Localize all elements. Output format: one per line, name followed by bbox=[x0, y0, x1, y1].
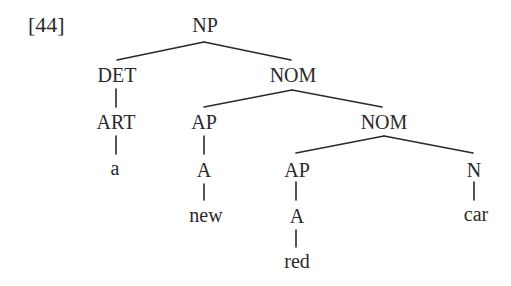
node-a-red: A bbox=[290, 206, 304, 226]
node-ap-new: AP bbox=[191, 112, 217, 132]
word-car: car bbox=[464, 204, 488, 224]
tree-edge-np-nom bbox=[204, 42, 291, 60]
tree-edge-nom-ap bbox=[204, 90, 292, 107]
node-det: DET bbox=[98, 65, 137, 85]
node-a-new: A bbox=[197, 160, 211, 180]
node-nom-lower: NOM bbox=[361, 112, 408, 132]
tree-edges bbox=[0, 0, 511, 286]
node-np: NP bbox=[192, 15, 218, 35]
node-n: N bbox=[467, 160, 481, 180]
word-new: new bbox=[189, 205, 222, 225]
tree-edge-np-det bbox=[117, 42, 204, 60]
example-number: [44] bbox=[28, 14, 65, 36]
node-art: ART bbox=[97, 112, 136, 132]
word-a: a bbox=[111, 158, 120, 178]
word-red: red bbox=[284, 251, 310, 271]
tree-edge-nom-n bbox=[384, 136, 473, 153]
node-nom-upper: NOM bbox=[270, 65, 317, 85]
tree-edge-nom-ap bbox=[296, 136, 384, 153]
node-ap-red: AP bbox=[284, 160, 310, 180]
tree-edge-nom-nom bbox=[292, 90, 382, 107]
syntax-tree-diagram: [44] NP DET NOM ART AP NOM a A AP N new … bbox=[0, 0, 511, 286]
